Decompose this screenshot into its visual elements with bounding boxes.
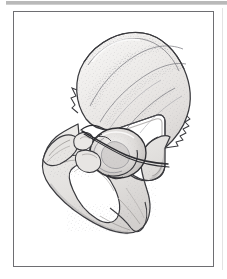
- hip-bone-illustration: [14, 12, 215, 268]
- figure-area: [14, 12, 215, 268]
- top-scan-rule: [6, 1, 227, 5]
- right-edge-scan-line: [222, 8, 223, 270]
- screenshot-root: [0, 0, 227, 279]
- figure-frame: [13, 11, 214, 267]
